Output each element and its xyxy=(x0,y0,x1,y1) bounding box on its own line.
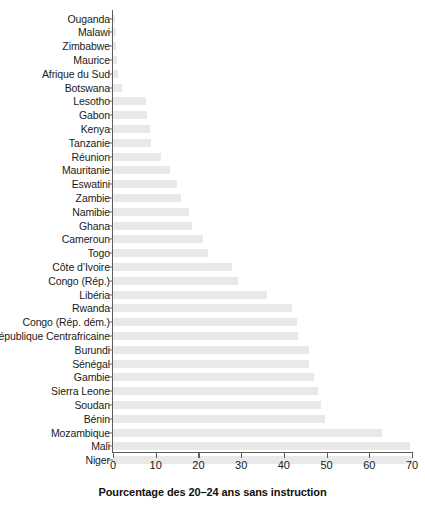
x-axis-tick-label: 20 xyxy=(192,459,204,471)
bar-row: Sierra Leone xyxy=(0,384,425,399)
bar-fill xyxy=(113,56,117,64)
bar xyxy=(113,194,181,202)
x-axis-tick xyxy=(412,453,413,458)
bar-category-label: Ghana xyxy=(79,220,110,231)
x-axis-tick-label: 60 xyxy=(363,459,375,471)
bar-fill xyxy=(113,180,177,188)
bar-category-label: Tanzanie xyxy=(69,137,110,148)
bar-fill xyxy=(113,401,321,409)
bar xyxy=(113,429,382,437)
bar-row: Côte d’Ivoire xyxy=(0,259,425,274)
bar-category-label: Afrique du Sud xyxy=(42,68,110,79)
bar xyxy=(113,304,292,312)
bar-category-label: Burundi xyxy=(75,344,111,355)
bar-category-label: Libéria xyxy=(79,289,110,300)
bar-fill xyxy=(113,194,181,202)
bar-category-label: Rwanda xyxy=(72,303,110,314)
bar-fill xyxy=(113,277,238,285)
bar-category-label: Niger xyxy=(85,455,110,466)
bar-fill xyxy=(113,70,118,78)
bar-row: Cameroun xyxy=(0,232,425,247)
bar-row: Rwanda xyxy=(0,301,425,316)
bar-fill xyxy=(113,442,410,450)
bar xyxy=(113,332,298,340)
bar-category-label: Togo xyxy=(88,248,110,259)
bar-fill xyxy=(113,373,314,381)
bar xyxy=(113,442,410,450)
bar-fill xyxy=(113,125,150,133)
bar-category-label: Mozambique xyxy=(51,427,110,438)
bar-fill xyxy=(113,97,146,105)
bar-fill xyxy=(113,249,208,257)
x-axis-tick xyxy=(198,453,199,458)
bar-fill xyxy=(113,360,309,368)
bar-category-label: Réunion xyxy=(72,151,110,162)
bar-category-label: Gambie xyxy=(74,372,110,383)
bar-row: Afrique du Sud xyxy=(0,66,425,81)
bar xyxy=(113,70,118,78)
x-axis-tick-label: 30 xyxy=(235,459,247,471)
bar-category-label: Cameroun xyxy=(62,234,110,245)
bar-row: Mozambique xyxy=(0,425,425,440)
bar-fill xyxy=(113,332,298,340)
bar-fill xyxy=(113,263,232,271)
bar-row: Congo (Rép. dém.) xyxy=(0,315,425,330)
bar-category-label: Namibie xyxy=(72,206,110,217)
bar-fill xyxy=(113,291,267,299)
bar-row: Kenya xyxy=(0,121,425,136)
bar xyxy=(113,346,309,354)
bar xyxy=(113,235,203,243)
x-axis-tick xyxy=(241,453,242,458)
bar-category-label: Zimbabwe xyxy=(62,41,110,52)
bar xyxy=(113,166,170,174)
y-axis-line xyxy=(112,10,113,453)
x-axis-tick xyxy=(369,453,370,458)
bar-row: Eswatini xyxy=(0,177,425,192)
bar xyxy=(113,153,161,161)
bar-category-label: Gabon xyxy=(79,110,110,121)
bar xyxy=(113,291,267,299)
bar-fill xyxy=(113,84,122,92)
bar-fill xyxy=(113,304,292,312)
bar-row: Niger xyxy=(0,453,425,468)
bar-fill xyxy=(113,42,116,50)
x-axis-title: Pourcentage des 20–24 ans sans instructi… xyxy=(0,486,425,498)
bar xyxy=(113,84,122,92)
bar-row: République Centrafricaine xyxy=(0,328,425,343)
bar-fill xyxy=(113,153,161,161)
bar xyxy=(113,249,208,257)
bar-fill xyxy=(113,429,382,437)
bar-fill xyxy=(113,222,192,230)
x-axis-tick xyxy=(113,453,114,458)
bar-row: Zambie xyxy=(0,190,425,205)
bar-category-label: République Centrafricaine xyxy=(0,330,110,341)
bar-category-label: Soudan xyxy=(74,399,110,410)
x-axis-line xyxy=(112,452,413,453)
bar-row: Ghana xyxy=(0,218,425,233)
bar xyxy=(113,277,238,285)
bar-row: Malawi xyxy=(0,25,425,40)
x-axis-tick xyxy=(327,453,328,458)
bar xyxy=(113,373,314,381)
bar-row: Congo (Rép.) xyxy=(0,273,425,288)
bar-fill xyxy=(113,111,147,119)
bar-chart-figure: OugandaMalawiZimbabweMauriceAfrique du S… xyxy=(0,0,425,512)
bar-category-label: Botswana xyxy=(65,82,110,93)
bar xyxy=(113,180,177,188)
bar xyxy=(113,415,325,423)
bar-row: Lesotho xyxy=(0,94,425,109)
bar-fill xyxy=(113,139,151,147)
bar-category-label: Eswatini xyxy=(72,179,110,190)
bar-row: Namibie xyxy=(0,204,425,219)
bar xyxy=(113,56,117,64)
bar xyxy=(113,401,321,409)
bar-fill xyxy=(113,387,318,395)
x-axis-tick-label: 40 xyxy=(278,459,290,471)
bar-category-label: Ouganda xyxy=(67,13,110,24)
bar-row: Libéria xyxy=(0,287,425,302)
x-axis-tick-label: 70 xyxy=(406,459,418,471)
x-axis-tick-label: 0 xyxy=(110,459,116,471)
x-axis-tick xyxy=(156,453,157,458)
bar-row: Sénégal xyxy=(0,356,425,371)
bar-category-label: Congo (Rép.) xyxy=(48,275,110,286)
